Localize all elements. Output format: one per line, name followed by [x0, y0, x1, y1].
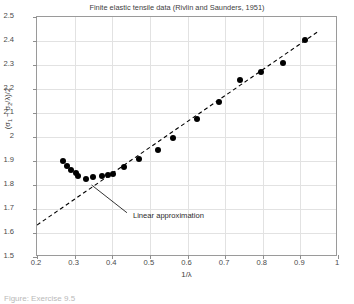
x-axis-tick-label: 1	[322, 258, 352, 267]
x-axis-title: 1/λ	[36, 270, 337, 279]
y-axis-tick-label: 2.5	[0, 11, 14, 20]
x-axis-tick-label: 0.3	[59, 258, 89, 267]
x-axis-tick-label: 0.7	[209, 258, 239, 267]
y-axis-tick-label: 2.4	[0, 35, 14, 44]
x-axis-tick-label: 0.5	[134, 258, 164, 267]
x-axis-tick-label: 0.8	[247, 258, 277, 267]
y-axis-tick-label: 1.7	[0, 203, 14, 212]
chart-figure: Finite elastic tensile data (Rivlin and …	[0, 0, 354, 304]
y-axis-tick-label: 1.8	[0, 179, 14, 188]
x-axis-tick-label: 0.2	[21, 258, 51, 267]
y-axis-tick-labels: 1.51.61.71.81.922.12.22.32.42.5	[0, 16, 354, 256]
y-axis-tick-label: 1.6	[0, 227, 14, 236]
x-axis-tick-label: 0.6	[172, 258, 202, 267]
figure-caption: Figure: Exercise 9.5	[4, 292, 204, 304]
y-axis-title: (σ1 − σ2/λ)/2	[3, 49, 12, 169]
x-axis-tick-label: 0.4	[96, 258, 126, 267]
x-axis-tick-label: 0.9	[284, 258, 314, 267]
y-axis-tick-label: 1.5	[0, 251, 14, 260]
chart-title: Finite elastic tensile data (Rivlin and …	[0, 3, 354, 12]
